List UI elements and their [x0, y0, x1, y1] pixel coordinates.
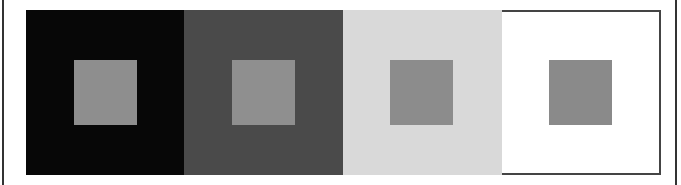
gray-square — [390, 60, 453, 125]
gray-square — [74, 60, 137, 125]
gray-square — [549, 60, 612, 125]
panel-black — [26, 10, 184, 175]
panel-dark-gray — [184, 10, 343, 175]
gray-square — [232, 60, 295, 125]
panel-light-gray — [343, 10, 502, 175]
panel-white — [502, 10, 661, 175]
